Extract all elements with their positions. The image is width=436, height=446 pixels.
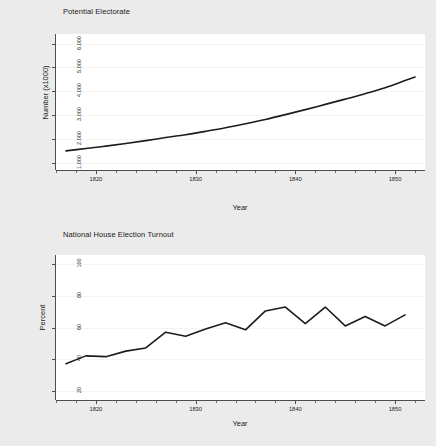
x-axis-tick-label: 1850 (389, 406, 402, 412)
y-axis-tick-label: 100 (76, 248, 82, 278)
x-axis-minor-tick (116, 401, 117, 403)
y-axis-tick (52, 91, 55, 92)
x-axis-minor-tick (216, 401, 217, 403)
y-axis-tick (52, 44, 55, 45)
series-line-house-election-turnout (56, 255, 425, 400)
y-axis-tick (52, 115, 55, 116)
y-axis-line (55, 255, 56, 400)
x-axis-tick (395, 401, 396, 404)
x-axis-minor-tick (355, 401, 356, 403)
x-axis-minor-tick (315, 401, 316, 403)
x-axis-tick (96, 401, 97, 404)
x-axis-minor-tick (116, 171, 117, 173)
x-axis-tick-label: 1840 (289, 176, 302, 182)
x-axis-minor-tick (255, 401, 256, 403)
x-axis-minor-tick (136, 401, 137, 403)
chart-title-bottom: National House Election Turnout (63, 230, 174, 239)
x-axis-minor-tick (335, 171, 336, 173)
x-axis-minor-tick (236, 401, 237, 403)
x-axis-minor-tick (76, 171, 77, 173)
x-axis-minor-tick (176, 401, 177, 403)
x-axis-tick-label: 1840 (289, 406, 302, 412)
x-axis-minor-tick (255, 171, 256, 173)
x-axis-tick (395, 171, 396, 174)
x-axis-minor-tick (156, 401, 157, 403)
x-axis-line (56, 400, 425, 401)
plot-area-bottom (56, 255, 425, 400)
y-axis-tick (52, 139, 55, 140)
x-axis-tick-label: 1830 (189, 176, 202, 182)
x-axis-minor-tick (335, 401, 336, 403)
x-axis-tick (295, 401, 296, 404)
x-axis-minor-tick (415, 401, 416, 403)
y-axis-tick (52, 391, 55, 392)
x-axis-title-bottom: Year (232, 419, 247, 428)
x-axis-minor-tick (355, 171, 356, 173)
x-axis-tick (96, 171, 97, 174)
x-axis-tick-label: 1850 (389, 176, 402, 182)
y-axis-tick-label: 80 (76, 280, 82, 310)
x-axis-minor-tick (275, 171, 276, 173)
chart-title-top: Potential Electorate (63, 7, 130, 16)
x-axis-minor-tick (375, 401, 376, 403)
y-axis-tick (52, 264, 55, 265)
x-axis-minor-tick (56, 171, 57, 173)
x-axis-minor-tick (216, 171, 217, 173)
x-axis-minor-tick (275, 401, 276, 403)
y-axis-tick (52, 328, 55, 329)
x-axis-tick-label: 1830 (189, 406, 202, 412)
x-axis-minor-tick (415, 171, 416, 173)
chart-panel-house-election-turnout: National House Election Turnout Percent … (0, 223, 436, 446)
y-axis-tick (52, 296, 55, 297)
series-line-potential-electorate (56, 34, 425, 170)
y-axis-tick (52, 359, 55, 360)
plot-area-top (56, 34, 425, 170)
two-panel-line-chart-figure: Potential Electorate Number (x1000) Year… (0, 0, 436, 446)
chart-panel-potential-electorate: Potential Electorate Number (x1000) Year… (0, 0, 436, 223)
x-axis-minor-tick (136, 171, 137, 173)
y-axis-title-bottom: Percent (38, 280, 47, 356)
y-axis-tick-label: 40 (76, 343, 82, 373)
x-axis-minor-tick (56, 401, 57, 403)
x-axis-minor-tick (156, 171, 157, 173)
x-axis-tick (196, 171, 197, 174)
y-axis-tick (52, 67, 55, 68)
x-axis-minor-tick (315, 171, 316, 173)
x-axis-line (56, 170, 425, 171)
x-axis-tick-label: 1820 (89, 176, 102, 182)
y-axis-tick-label: 60 (76, 312, 82, 342)
x-axis-tick (196, 401, 197, 404)
y-axis-line (55, 34, 56, 170)
x-axis-minor-tick (375, 171, 376, 173)
y-axis-tick (52, 163, 55, 164)
x-axis-minor-tick (76, 401, 77, 403)
x-axis-title-top: Year (232, 203, 247, 212)
x-axis-tick-label: 1820 (89, 406, 102, 412)
y-axis-title-top: Number (x1000) (41, 38, 50, 148)
x-axis-minor-tick (236, 171, 237, 173)
x-axis-tick (295, 171, 296, 174)
x-axis-minor-tick (176, 171, 177, 173)
y-axis-tick-label: 6,000 (76, 28, 82, 58)
